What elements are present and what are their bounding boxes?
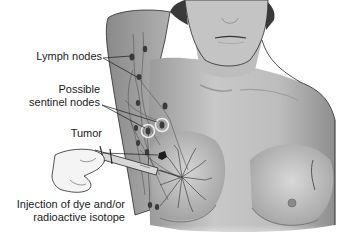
nipple: [288, 199, 296, 207]
breast-right: [250, 144, 333, 225]
sentinel-nodes-label-line2: sentinel nodes: [20, 96, 100, 109]
injection-label-line1: Injection of dye and/or: [10, 198, 125, 211]
breast-left: [150, 131, 225, 220]
lymph-nodes-label: Lymph nodes: [30, 50, 102, 63]
injection-label-line2: radioactive isotope: [10, 211, 125, 224]
hand: [52, 149, 104, 192]
sentinel-nodes-label-line1: Possible: [30, 83, 100, 96]
tumor-label: Tumor: [50, 127, 102, 140]
